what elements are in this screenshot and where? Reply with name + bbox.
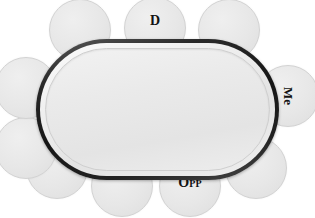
table-seating-diagram: DMeOpp [0, 0, 315, 218]
table-rail [40, 43, 275, 176]
poker-table [36, 39, 279, 180]
table-felt [45, 48, 270, 171]
seat-right-label: Me [282, 66, 295, 126]
seat-top-center-label: D [125, 14, 185, 28]
